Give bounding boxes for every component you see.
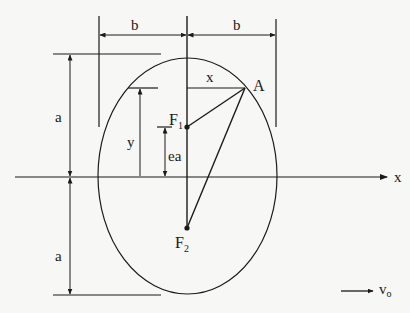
focus-f2-point — [184, 225, 189, 230]
ellipse-diagram: b b a a y ea x A F1 F2 x vo — [0, 0, 410, 313]
label-ea: ea — [168, 148, 182, 164]
label-b-left: b — [131, 17, 139, 33]
label-x-segment: x — [206, 69, 214, 85]
label-a-bottom: a — [55, 248, 62, 264]
focus-f1-point — [184, 124, 189, 129]
label-f2: F2 — [175, 234, 189, 254]
label-x-axis: x — [394, 169, 402, 185]
label-v0: vo — [379, 281, 392, 299]
label-b-right: b — [233, 17, 241, 33]
f2-to-a-line — [187, 88, 245, 228]
label-point-a: A — [253, 77, 265, 94]
label-f1: F1 — [169, 111, 183, 131]
label-a-top: a — [55, 109, 62, 125]
diagram-canvas: b b a a y ea x A F1 F2 x vo — [0, 0, 410, 313]
label-y: y — [127, 134, 135, 150]
